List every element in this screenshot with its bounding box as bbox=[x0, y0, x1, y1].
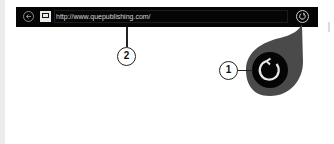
callout-1-line bbox=[237, 70, 253, 72]
magnified-refresh-button-bg bbox=[252, 52, 288, 88]
callout-2: 2 bbox=[117, 47, 136, 66]
callout-2-line bbox=[126, 27, 128, 47]
callout-1: 1 bbox=[219, 61, 238, 80]
magnified-refresh-callout bbox=[0, 0, 334, 144]
